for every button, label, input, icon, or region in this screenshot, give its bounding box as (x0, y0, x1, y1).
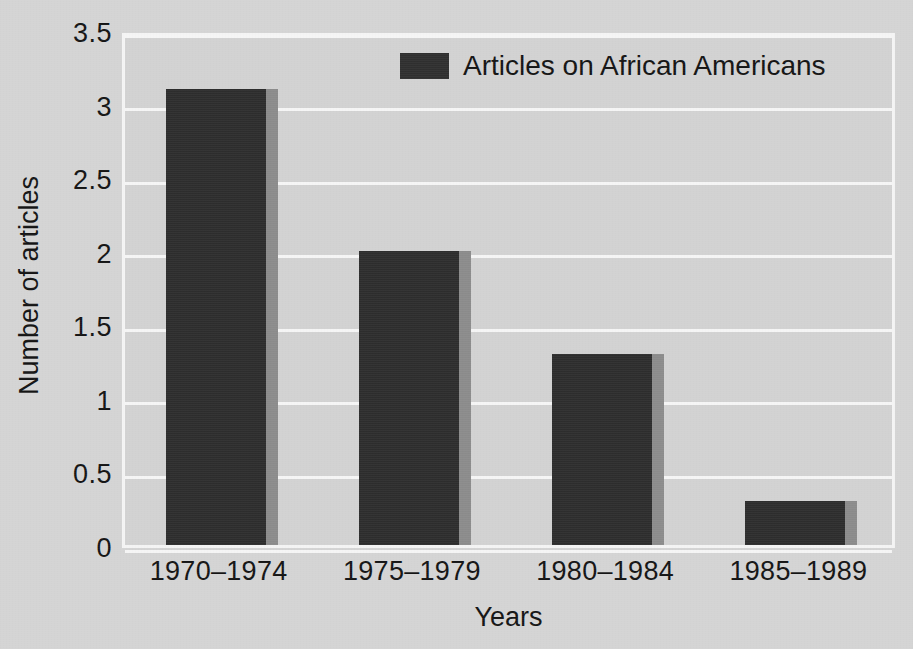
x-tick-label: 1970–1974 (129, 556, 309, 587)
y-tick-label: 3.5 (0, 20, 112, 47)
plot-area (122, 33, 895, 548)
x-axis-title: Years (122, 602, 895, 633)
bar[interactable] (745, 501, 845, 545)
bar[interactable] (552, 354, 652, 545)
bar[interactable] (359, 251, 459, 545)
chart-legend: Articles on African Americans (400, 52, 826, 80)
y-axis-title: Number of articles (14, 71, 45, 501)
bar-chart-figure: 00.511.522.533.5 Number of articles 1970… (0, 0, 913, 649)
x-tick-label: 1985–1989 (708, 556, 888, 587)
gridline (125, 550, 892, 553)
x-axis-ticks: 1970–19741975–19791980–19841985–1989 (122, 556, 895, 596)
y-tick-label: 0 (0, 535, 112, 562)
legend-label: Articles on African Americans (463, 52, 826, 80)
gridline (125, 35, 892, 38)
x-tick-label: 1980–1984 (515, 556, 695, 587)
x-tick-label: 1975–1979 (322, 556, 502, 587)
legend-swatch-articles-on-african-americans (400, 53, 449, 79)
bar[interactable] (166, 89, 266, 545)
